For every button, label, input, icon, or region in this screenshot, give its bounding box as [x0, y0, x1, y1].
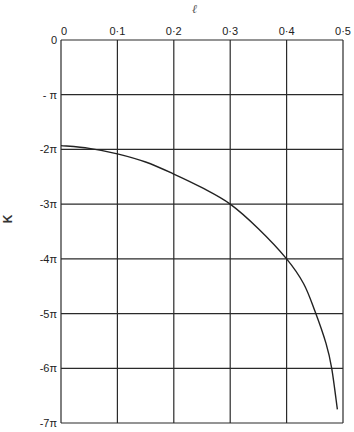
y-tick-label: 0 — [51, 34, 57, 46]
y-tick-labels: 0- π-2π-3π-4π-5π-6π-7π — [40, 34, 58, 429]
y-tick-label: -2π — [40, 143, 58, 155]
x-tick-label: 0·1 — [109, 25, 125, 37]
y-tick-label: -5π — [40, 308, 58, 320]
y-tick-label: -6π — [40, 362, 58, 374]
chart-plot: 00·10·20·30·40·5 0- π-2π-3π-4π-5π-6π-7π — [0, 0, 354, 432]
x-tick-label: 0·3 — [222, 25, 238, 37]
x-tick-label: 0·5 — [335, 25, 351, 37]
y-tick-label: -3π — [40, 198, 58, 210]
x-tick-label: 0·2 — [166, 25, 182, 37]
data-curve — [61, 146, 337, 410]
y-tick-label: - π — [43, 89, 58, 101]
x-tick-label: 0·4 — [279, 25, 295, 37]
grid-lines — [61, 40, 343, 423]
x-tick-label: 0 — [61, 25, 67, 37]
y-tick-label: -7π — [40, 417, 58, 429]
y-tick-label: -4π — [40, 253, 58, 265]
x-tick-labels: 00·10·20·30·40·5 — [61, 25, 351, 37]
